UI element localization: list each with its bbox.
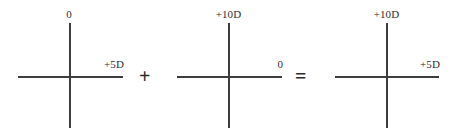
power-cross-equation: 0 +5D + +10D 0 = +10D +5D: [0, 0, 453, 137]
horizontal-meridian-line: [177, 76, 282, 78]
power-cross-first: 0 +5D: [0, 0, 135, 137]
equals-operator: =: [295, 66, 306, 86]
vertical-meridian-label: +10D: [361, 8, 412, 21]
horizontal-meridian-line: [335, 76, 439, 78]
power-cross-result: +10D +5D: [318, 0, 453, 137]
vertical-meridian-label: +10D: [203, 8, 254, 21]
horizontal-meridian-label: +5D: [389, 58, 440, 71]
plus-operator: +: [139, 66, 150, 86]
power-cross-second: +10D 0: [160, 0, 295, 137]
horizontal-meridian-label: 0: [232, 58, 283, 71]
vertical-meridian-label: 0: [49, 8, 89, 21]
horizontal-meridian-line: [18, 76, 123, 78]
horizontal-meridian-label: +5D: [73, 58, 124, 71]
